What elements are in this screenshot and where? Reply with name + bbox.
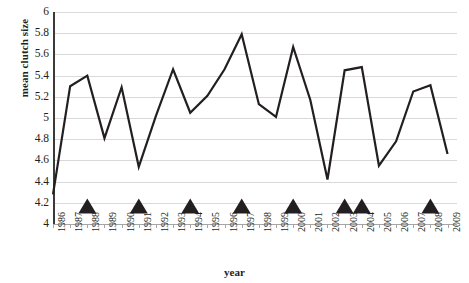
mean-clutch-size-line: [53, 34, 448, 194]
year-marker-triangle: [233, 198, 251, 213]
year-marker-triangle: [78, 198, 96, 213]
year-marker-triangle: [421, 198, 439, 213]
year-marker-triangle: [336, 198, 354, 213]
year-marker-triangle: [353, 198, 371, 213]
x-axis-title: year: [0, 266, 469, 278]
year-marker-triangles: [78, 198, 439, 213]
year-marker-triangle: [181, 198, 199, 213]
clutch-size-line-chart: mean clutch size 44.24.44.64.855.25.45.6…: [0, 0, 469, 283]
series-and-markers: [0, 0, 469, 283]
year-marker-triangle: [284, 198, 302, 213]
year-marker-triangle: [130, 198, 148, 213]
